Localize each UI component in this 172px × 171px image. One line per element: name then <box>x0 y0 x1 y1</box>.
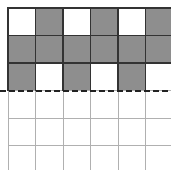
shaded-border-vertical <box>35 7 37 91</box>
shaded-cell <box>63 63 91 91</box>
empty-cell <box>8 146 36 171</box>
empty-cell <box>91 118 119 146</box>
empty-cell <box>63 118 91 146</box>
empty-cell <box>36 146 64 171</box>
shaded-border-vertical <box>62 7 64 91</box>
shaded-cell <box>36 8 64 36</box>
shaded-border-vertical <box>7 7 9 91</box>
empty-cell <box>8 91 36 119</box>
shaded-border-horizontal <box>8 35 171 37</box>
shaded-border-horizontal <box>8 7 171 9</box>
empty-cell <box>8 8 36 36</box>
empty-cell <box>91 63 119 91</box>
empty-cell <box>91 146 119 171</box>
empty-cell <box>146 118 172 146</box>
empty-cell <box>118 118 146 146</box>
empty-cell <box>36 63 64 91</box>
empty-cell <box>91 91 119 119</box>
empty-cell <box>63 8 91 36</box>
shaded-border-horizontal <box>8 62 171 64</box>
shaded-border-vertical <box>117 7 119 91</box>
empty-cell <box>36 118 64 146</box>
empty-cell <box>118 91 146 119</box>
shaded-border-vertical <box>90 7 92 91</box>
grid-line-horizontal <box>8 118 171 119</box>
shaded-cell <box>118 63 146 91</box>
empty-cell <box>146 91 172 119</box>
shaded-cell <box>8 63 36 91</box>
empty-cell <box>36 91 64 119</box>
empty-cell <box>118 8 146 36</box>
grid-line-horizontal <box>8 145 171 146</box>
empty-cell <box>63 146 91 171</box>
empty-cell <box>63 91 91 119</box>
shaded-cell <box>146 36 172 64</box>
empty-cell <box>118 146 146 171</box>
empty-cell <box>146 146 172 171</box>
empty-cell <box>8 118 36 146</box>
shaded-cell <box>8 36 36 64</box>
dashed-divider-line <box>0 90 171 92</box>
empty-cell <box>146 63 172 91</box>
shaded-cell <box>91 8 119 36</box>
shaded-border-vertical <box>145 7 147 91</box>
shaded-cell <box>146 8 172 36</box>
shaded-cell <box>91 36 119 64</box>
shaded-cell <box>118 36 146 64</box>
shaded-cell <box>63 36 91 64</box>
shaded-cell <box>36 36 64 64</box>
